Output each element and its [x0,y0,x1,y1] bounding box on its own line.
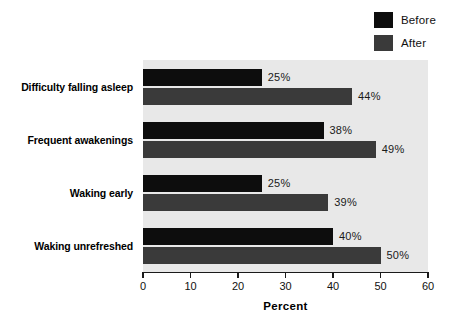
value-label-before-1: 38% [330,124,353,136]
x-tick-1 [190,272,192,278]
value-label-after-3: 50% [387,249,410,261]
value-label-after-0: 44% [358,90,381,102]
x-tick-0 [142,272,144,278]
value-label-after-2: 39% [334,196,357,208]
x-tick-label-5: 50 [374,280,386,292]
x-tick-5 [380,272,382,278]
legend-swatch-before-icon [374,12,393,28]
category-label-2: Waking early [70,187,133,199]
category-label-1: Frequent awakenings [28,134,133,146]
legend-label-before: Before [401,14,436,26]
x-tick-4 [332,272,334,278]
bar-after-2 [143,194,328,211]
value-label-before-2: 25% [268,177,291,189]
bar-before-2 [143,175,262,192]
bar-after-0 [143,88,352,105]
value-label-after-1: 49% [382,143,405,155]
bar-before-0 [143,69,262,86]
bar-before-3 [143,228,333,245]
x-tick-2 [237,272,239,278]
value-label-before-3: 40% [339,230,362,242]
category-label-3: Waking unrefreshed [34,240,133,252]
x-axis-title: Percent [143,300,428,312]
bar-before-1 [143,122,324,139]
x-tick-label-6: 60 [422,280,434,292]
bar-chart: Before After Difficulty falling asleepFr… [0,0,450,323]
value-label-before-0: 25% [268,71,291,83]
legend-item-after: After [374,35,436,51]
plot-area: 25%44%38%49%25%39%40%50% [143,60,428,273]
x-tick-label-3: 30 [279,280,291,292]
x-tick-label-0: 0 [140,280,146,292]
x-tick-label-4: 40 [327,280,339,292]
legend-swatch-after-icon [374,35,393,51]
chart-legend: Before After [374,12,436,51]
x-tick-label-1: 10 [184,280,196,292]
x-axis: 0102030405060 [143,272,428,302]
bar-after-3 [143,247,381,264]
bar-after-1 [143,141,376,158]
legend-label-after: After [401,37,426,49]
category-axis-labels: Difficulty falling asleepFrequent awaken… [0,60,139,272]
legend-item-before: Before [374,12,436,28]
x-tick-6 [427,272,429,278]
category-label-0: Difficulty falling asleep [21,81,133,93]
x-tick-3 [285,272,287,278]
x-tick-label-2: 20 [232,280,244,292]
